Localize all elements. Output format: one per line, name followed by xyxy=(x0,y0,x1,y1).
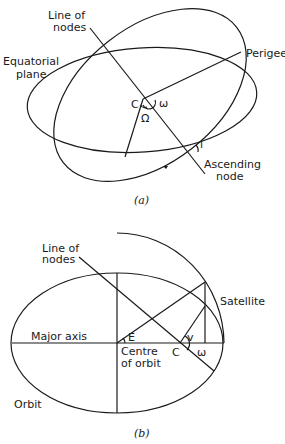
label-true-anomaly: v xyxy=(187,331,194,344)
label-major-axis: Major axis xyxy=(31,330,87,343)
label-omega-b: ω xyxy=(197,346,206,359)
label-node: node xyxy=(216,170,244,183)
label-eccentric-anomaly: E xyxy=(128,331,135,344)
label-nodes-a: nodes xyxy=(53,21,86,34)
figure-b: Line of nodes Satellite Major axis E v C… xyxy=(11,233,265,440)
label-equatorial: Equatorial xyxy=(3,55,59,68)
label-orbit: Orbit xyxy=(14,398,42,411)
label-inclination: i xyxy=(200,138,203,151)
label-center-a: C xyxy=(131,98,139,111)
figure-a: Line of nodes Equatorial plane Perigee C… xyxy=(3,0,285,216)
caption-a: (a) xyxy=(134,194,149,207)
label-of-orbit: of orbit xyxy=(121,357,161,370)
label-plane: plane xyxy=(16,68,47,81)
diagram-canvas: Line of nodes Equatorial plane Perigee C… xyxy=(0,0,285,444)
e-angle-arc xyxy=(123,338,125,343)
perigee-line xyxy=(143,52,241,99)
label-center-b: C xyxy=(172,346,180,359)
label-nodes-b: nodes xyxy=(42,253,75,266)
label-satellite: Satellite xyxy=(220,295,265,308)
direction-arrow-icon xyxy=(163,166,168,169)
orbital-elements-figure: Line of nodes Equatorial plane Perigee C… xyxy=(0,0,285,444)
caption-b: (b) xyxy=(134,427,150,440)
label-raan: Ω xyxy=(141,112,149,125)
equatorial-plane-ellipse xyxy=(24,40,261,160)
label-omega-a: ω xyxy=(159,97,168,110)
label-perigee: Perigee xyxy=(246,47,285,60)
auxiliary-circle-arc xyxy=(117,233,224,343)
inclination-arc xyxy=(196,145,198,152)
